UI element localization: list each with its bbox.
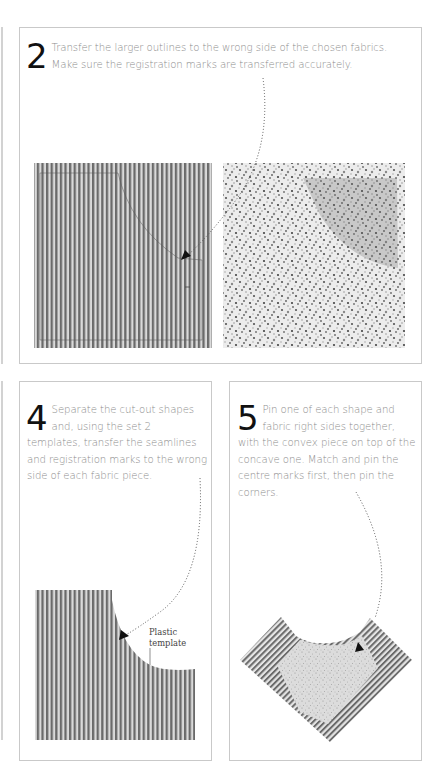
- pinned-pieces-illustration: [240, 492, 412, 742]
- plastic-template-label: Plastictemplate: [149, 627, 186, 649]
- concave-striped-piece-illustration: [35, 478, 201, 740]
- dotted-fabric-illustration: [223, 163, 405, 348]
